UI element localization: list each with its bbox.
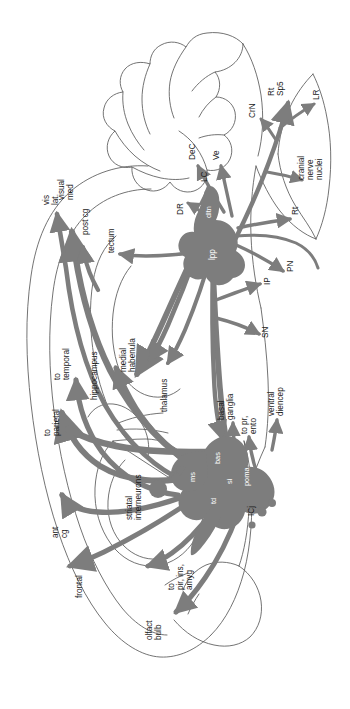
label-lpp: lpp [208, 249, 217, 260]
label-hippocampus-text: hippocampus [90, 351, 99, 400]
label-lc-text: LC [200, 171, 209, 182]
label-to-parietal-line1: to [43, 429, 52, 436]
label-bas-text: bas [213, 452, 222, 464]
label-visual-med-line1: visual [57, 179, 66, 200]
label-rt-sp5-line1: Rt [267, 87, 276, 96]
brain-pathway-diagram: vis lat visual med post cg tectum hippoc… [0, 0, 350, 709]
label-pn: PN [286, 261, 295, 272]
label-cnn-line2: nerve [306, 159, 315, 180]
label-frontal-text: frontal [75, 575, 84, 598]
label-ventral-diencep-line1: ventral [267, 391, 276, 416]
label-si-text: si [225, 478, 234, 484]
icj-blob-2 [268, 499, 276, 507]
label-to-pir-line2: pir, ins, [176, 564, 185, 590]
label-ve: Ve [212, 150, 221, 160]
label-tectum-text: tectum [107, 228, 116, 253]
label-bas: bas [213, 452, 222, 464]
label-post-cg-text: post cg [81, 208, 90, 235]
label-cnn-line3: nuclei [315, 158, 324, 180]
label-poma: poma [242, 467, 251, 486]
label-icj: ICj [247, 506, 256, 516]
label-dr: DR [176, 203, 185, 215]
label-dr-text: DR [176, 203, 185, 215]
label-ve-text: Ve [212, 150, 221, 160]
label-medial-habenula-line2: habenula [128, 338, 137, 372]
label-rt-sp5-line2: Sp5 [276, 81, 285, 96]
label-post-cg: post cg [81, 208, 90, 235]
label-ms: ms [188, 472, 197, 482]
label-olfact-bulb-line1: olfact [145, 620, 154, 640]
label-dec-text: DeC [188, 144, 197, 160]
label-sn-text: SN [261, 327, 270, 338]
label-basal-ganglia-line1: basal [217, 400, 226, 420]
label-to-pr-ento: to pr, ento [240, 416, 258, 434]
label-striatal-line2: interneurons [134, 474, 143, 520]
label-lc: LC [200, 171, 209, 182]
label-thalamus: thalamus [160, 379, 169, 412]
label-crn: CrN [248, 103, 257, 118]
label-ip-text: IP [263, 277, 272, 285]
label-thalamus-text: thalamus [160, 379, 169, 412]
label-to-parietal-line2: parietal [52, 409, 61, 436]
label-tectum: tectum [107, 228, 116, 253]
label-to-pr-ento-line1: to pr, [240, 416, 249, 434]
label-ventral-diencep-line2: diencep [276, 387, 285, 416]
label-icj-text: ICj [247, 506, 256, 516]
label-ip: IP [263, 277, 272, 285]
label-ms-text: ms [188, 472, 197, 482]
diagram-canvas: vis lat visual med post cg tectum hippoc… [0, 0, 350, 709]
label-crn-text: CrN [248, 103, 257, 118]
label-pn-text: PN [286, 261, 295, 272]
label-visual-med-line2: med [66, 184, 75, 200]
label-basal-ganglia-line2: ganglia [226, 393, 235, 420]
label-olfact-bulb-line2: bulb [154, 624, 163, 640]
label-td: td [209, 498, 218, 504]
label-vis-lat-line1: vis [42, 195, 51, 205]
label-to-pir-line1: to [167, 583, 176, 590]
label-to-pr-ento-line2: ento [249, 418, 258, 434]
label-medial-habenula-line1: medial [119, 348, 128, 372]
label-si: si [225, 478, 234, 484]
label-to-temporal-line1: to [53, 373, 62, 380]
label-striatal-line1: striatal [125, 496, 134, 520]
label-to-pir-line3: amyg [185, 570, 194, 590]
label-cnn-line1: cranial [297, 156, 306, 180]
label-lr: LR [312, 89, 321, 100]
icj-blob-1 [257, 507, 266, 516]
label-ant-cg-line2: cg [60, 529, 69, 538]
label-poma-text: poma [242, 467, 251, 486]
icj-blob-3 [248, 521, 255, 528]
label-hippocampus: hippocampus [90, 351, 99, 400]
label-td-text: td [209, 498, 218, 504]
label-ant-cg-line1: ant [51, 526, 60, 538]
label-rt: Rt [291, 206, 300, 215]
label-dltn: dltn [204, 206, 213, 218]
label-dltn-text: dltn [204, 206, 213, 218]
label-sn: SN [261, 327, 270, 338]
label-dec: DeC [188, 144, 197, 160]
label-lr-text: LR [312, 89, 321, 100]
label-lpp-text: lpp [208, 249, 217, 260]
label-frontal: frontal [75, 575, 84, 598]
label-to-temporal-line2: temporal [62, 348, 71, 380]
label-rt-text: Rt [291, 206, 300, 215]
